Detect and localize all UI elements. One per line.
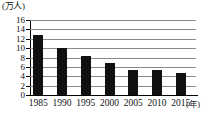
bar [33,35,43,95]
y-tick-mark [26,67,30,68]
x-tick-label: 1995 [76,98,95,109]
y-tick-mark [26,48,30,49]
plot-area: 0246810121416 [30,20,196,95]
y-tick-mark [26,95,30,96]
y-tick-mark [26,20,30,21]
bar-chart: (万人) 0246810121416 (年) 19851990199520002… [0,0,209,120]
y-tick-label: 2 [21,81,26,90]
y-tick-label: 14 [16,25,25,34]
bar [128,70,138,95]
bar [105,63,115,95]
y-axis-unit-label: (万人) [2,1,25,12]
y-tick-label: 4 [21,72,26,81]
x-tick-label: 1990 [53,98,72,109]
x-tick-label: 1985 [29,98,48,109]
gridline [30,39,196,40]
y-tick-label: 10 [16,44,25,53]
gridline [30,48,196,49]
y-tick-mark [26,86,30,87]
bar [57,48,67,95]
bar [176,73,186,95]
x-tick-label: 2010 [147,98,166,109]
y-tick-label: 16 [16,16,25,25]
y-tick-label: 8 [21,53,26,62]
y-tick-mark [26,39,30,40]
bar [152,70,162,95]
bar [81,56,91,95]
gridline [30,20,196,21]
y-tick-label: 6 [21,62,26,71]
y-tick-mark [26,29,30,30]
y-tick-mark [26,58,30,59]
x-tick-label: 2000 [100,98,119,109]
gridline [30,29,196,30]
x-tick-label: 2005 [124,98,143,109]
y-tick-label: 0 [21,91,26,100]
y-tick-mark [26,76,30,77]
gridline [30,58,196,59]
x-tick-label: 2015 [171,98,190,109]
y-tick-label: 12 [16,34,25,43]
x-axis-line [26,95,198,96]
